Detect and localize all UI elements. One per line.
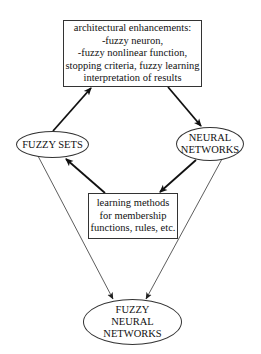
fnn-label-2: NEURAL (111, 316, 154, 328)
fuzzy-sets-label: FUZZY SETS (22, 139, 83, 151)
enhancements-line-2: -fuzzy neuron, (102, 35, 163, 48)
fnn-label-1: FUZZY (116, 304, 150, 316)
edge-enhancements-to-neuralnetworks (168, 87, 201, 126)
neural-networks-label-1: NEURAL (189, 132, 232, 144)
enhancements-line-3: -fuzzy nonlinear function, (78, 47, 187, 60)
enhancements-line-5: interpretation of results (84, 72, 182, 85)
fuzzy-neural-networks-node: FUZZY NEURAL NETWORKS (83, 299, 182, 345)
learning-line-2: for membership (100, 210, 167, 223)
learning-methods-box: learning methods for membership function… (88, 193, 178, 239)
edge-fuzzysets-to-enhancements (53, 88, 91, 131)
enhancements-line-4: stopping criteria, fuzzy learning (65, 60, 199, 73)
diagram-canvas: architectural enhancements: -fuzzy neuro… (0, 0, 261, 354)
edge-neuralnetworks-to-learning (160, 160, 196, 192)
neural-networks-label-2: NETWORKS (181, 144, 239, 156)
learning-line-1: learning methods (97, 197, 170, 210)
enhancements-line-1: architectural enhancements: (74, 22, 191, 35)
neural-networks-node: NEURAL NETWORKS (176, 127, 244, 161)
learning-line-3: functions, rules, etc. (91, 222, 176, 235)
fnn-label-3: NETWORKS (103, 328, 161, 340)
enhancements-box: architectural enhancements: -fuzzy neuro… (63, 20, 202, 87)
fuzzy-sets-node: FUZZY SETS (16, 131, 89, 158)
edge-learning-to-fuzzysets (66, 159, 105, 193)
